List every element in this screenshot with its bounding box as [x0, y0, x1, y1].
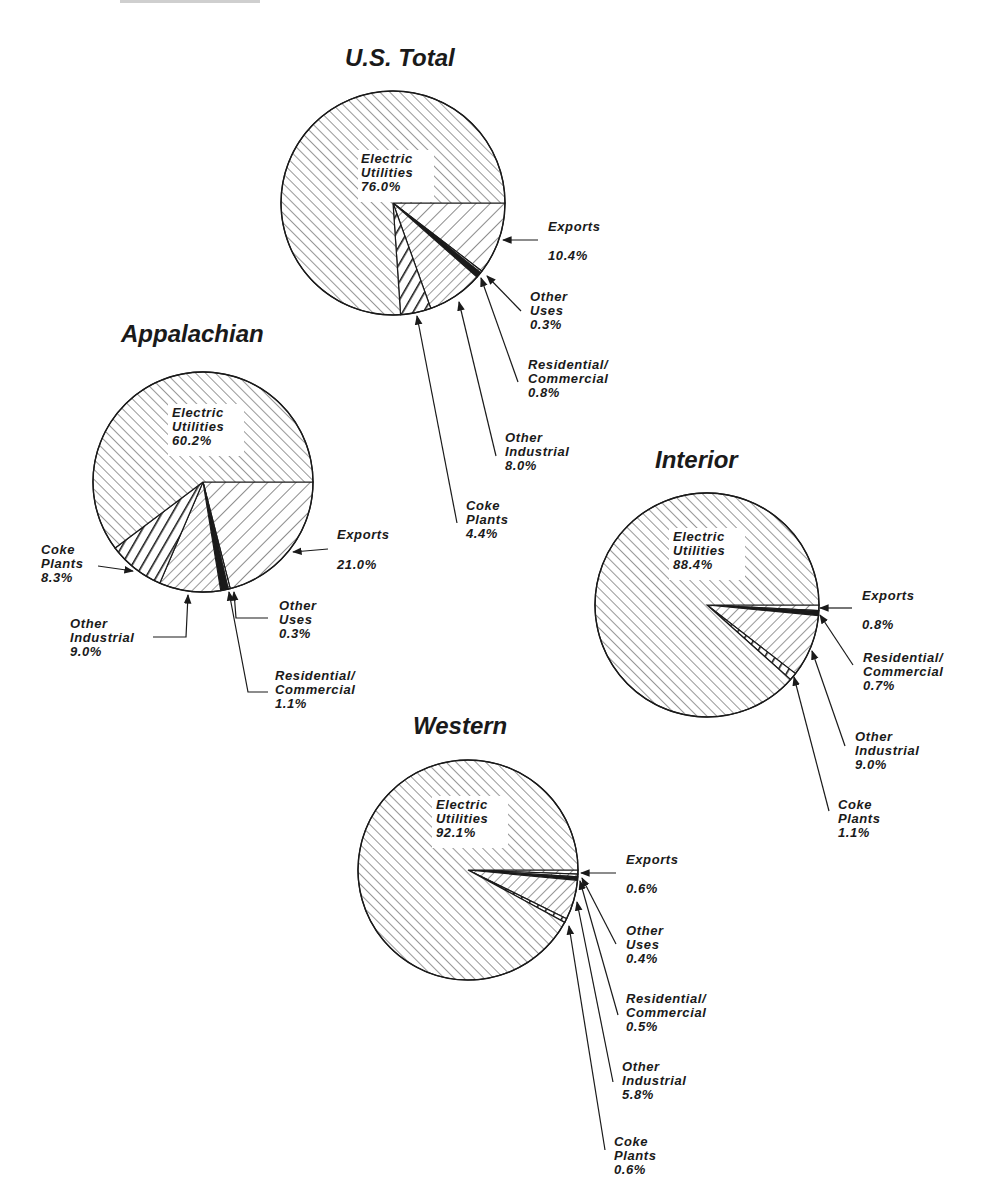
- callout-value-coke-plants: 8.3%: [41, 570, 73, 585]
- callout-arrow-coke-plants: [417, 316, 457, 523]
- callout-value-other-industrial: 9.0%: [70, 644, 102, 659]
- callout-label-other-industrial: OtherIndustrial: [70, 616, 135, 645]
- callout-label-residential-commercial: Residential/Commercial: [528, 357, 609, 386]
- callout-arrow-coke-plants: [569, 926, 605, 1150]
- pie-slice-electric-utilities: [595, 493, 819, 717]
- callout-value-other-uses: 0.3%: [530, 317, 562, 332]
- callout-value-coke-plants: 4.4%: [465, 526, 498, 541]
- pie-title-us-total: U.S. Total: [345, 44, 456, 71]
- pie-title-interior: Interior: [655, 446, 739, 473]
- callout-label-coke-plants: CokePlants: [838, 797, 881, 826]
- callout-value-exports: 10.4%: [548, 248, 588, 263]
- callout-label-coke-plants: CokePlants: [466, 498, 509, 527]
- pie-slice-electric-utilities: [358, 760, 578, 980]
- callout-label-coke-plants: CokePlants: [41, 542, 84, 571]
- center-label-value: 92.1%: [436, 825, 476, 840]
- callout-arrow-coke-plants: [794, 677, 829, 811]
- callout-label-other-industrial: OtherIndustrial: [505, 430, 570, 459]
- callout-arrow-other-uses: [582, 878, 616, 944]
- callout-label-exports: Exports: [337, 527, 390, 542]
- center-label-name: ElectricUtilities: [436, 797, 488, 826]
- callout-label-other-uses: OtherUses: [530, 289, 568, 318]
- callout-label-other-uses: OtherUses: [626, 923, 664, 952]
- callout-value-exports: 21.0%: [336, 557, 377, 572]
- callout-label-residential-commercial: Residential/Commercial: [275, 668, 356, 697]
- callout-arrow-other-industrial: [812, 651, 845, 746]
- callout-label-residential-commercial: Residential/Commercial: [863, 650, 944, 679]
- callout-label-other-industrial: OtherIndustrial: [855, 729, 920, 758]
- pie-western: [358, 760, 578, 980]
- callout-value-other-industrial: 9.0%: [855, 757, 887, 772]
- callout-arrow-other-uses: [234, 592, 268, 618]
- callout-value-other-uses: 0.4%: [626, 951, 658, 966]
- callout-value-other-uses: 0.3%: [279, 626, 311, 641]
- callout-value-coke-plants: 0.6%: [614, 1162, 646, 1177]
- callout-arrow-coke-plants: [98, 566, 133, 571]
- center-label-value: 60.2%: [172, 433, 212, 448]
- callout-arrow-exports: [293, 549, 328, 552]
- callout-value-other-industrial: 8.0%: [505, 458, 537, 473]
- pie-us-total: [281, 91, 505, 315]
- callout-value-residential-commercial: 0.5%: [626, 1019, 658, 1034]
- callout-value-coke-plants: 1.1%: [838, 825, 870, 840]
- center-label-value: 76.0%: [361, 179, 401, 194]
- callout-label-other-uses: OtherUses: [279, 598, 317, 627]
- pie-chart-figure: U.S. Total Appalachian Interior Western …: [0, 0, 987, 1201]
- callout-value-residential-commercial: 0.8%: [528, 385, 560, 400]
- callout-label-other-industrial: OtherIndustrial: [622, 1059, 687, 1088]
- pie-title-appalachian: Appalachian: [120, 320, 264, 347]
- callout-label-coke-plants: CokePlants: [614, 1134, 657, 1163]
- callout-arrow-other-industrial: [153, 595, 188, 637]
- callout-label-exports: Exports: [862, 588, 915, 603]
- center-label-name: ElectricUtilities: [361, 151, 413, 180]
- callout-label-residential-commercial: Residential/Commercial: [626, 991, 707, 1020]
- callout-value-exports: 0.8%: [862, 617, 894, 632]
- callout-value-residential-commercial: 0.7%: [863, 678, 895, 693]
- callout-arrow-residential-commercial: [820, 615, 853, 665]
- pie-title-western: Western: [413, 712, 507, 739]
- center-label-name: ElectricUtilities: [172, 405, 224, 434]
- callout-value-residential-commercial: 1.1%: [275, 696, 307, 711]
- callout-arrow-residential-commercial: [481, 278, 518, 382]
- callout-label-exports: Exports: [626, 852, 679, 867]
- center-label-name: ElectricUtilities: [673, 529, 725, 558]
- callout-value-other-industrial: 5.8%: [622, 1087, 654, 1102]
- callout-value-exports: 0.6%: [626, 881, 658, 896]
- callout-arrow-other-uses: [487, 276, 521, 311]
- center-label-value: 88.4%: [673, 557, 713, 572]
- callout-arrow-other-industrial: [459, 302, 496, 456]
- callout-label-exports: Exports: [548, 219, 601, 234]
- pie-interior: [595, 493, 819, 717]
